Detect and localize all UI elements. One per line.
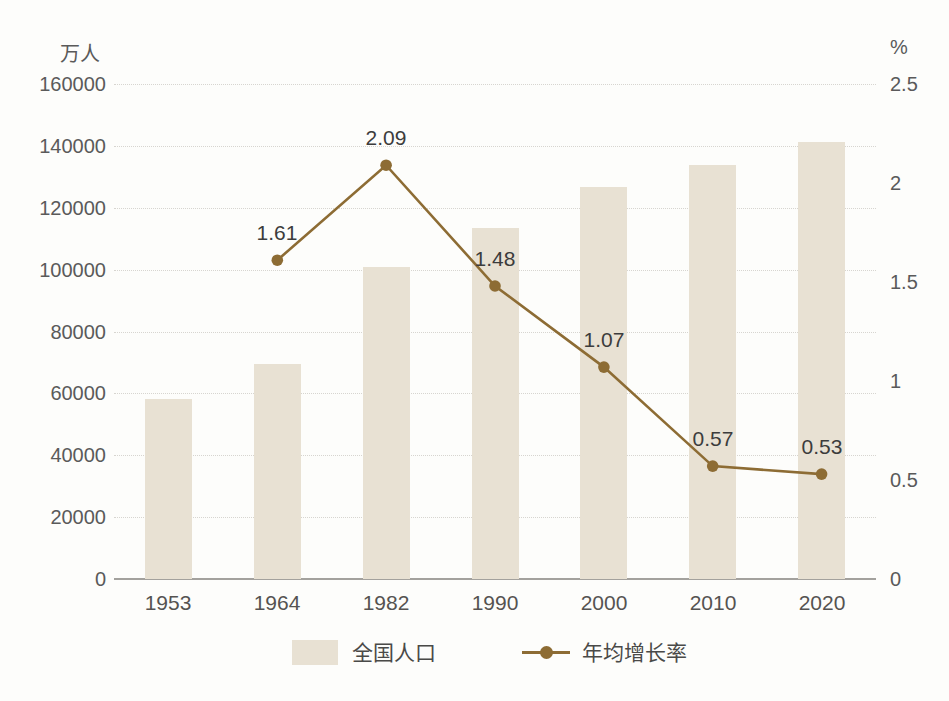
- growth-rate-point-dot: [380, 159, 392, 171]
- left-axis-title: 万人: [30, 43, 100, 65]
- x-axis-category-label: 2020: [777, 591, 867, 614]
- legend-bar-swatch: [292, 640, 338, 665]
- legend-bar-label: 全国人口: [352, 641, 436, 665]
- left-axis-tick-label: 40000: [30, 444, 106, 466]
- right-axis-tick-label: 2.5: [890, 73, 918, 95]
- growth-rate-point-label: 0.57: [671, 427, 755, 450]
- x-axis-category-label: 1990: [450, 591, 540, 614]
- left-axis-tick-label: 80000: [30, 321, 106, 343]
- growth-rate-point-label: 2.09: [344, 126, 428, 149]
- left-axis-tick-label: 60000: [30, 382, 106, 404]
- population-bar: [472, 228, 519, 579]
- x-axis-category-label: 2000: [559, 591, 649, 614]
- left-axis-tick-label: 120000: [30, 197, 106, 219]
- right-axis-tick-label: 1.5: [890, 271, 918, 293]
- population-bar: [254, 364, 301, 579]
- left-axis-tick-label: 0: [30, 568, 106, 590]
- x-axis-category-label: 1982: [341, 591, 431, 614]
- population-bar: [689, 165, 736, 579]
- right-axis-tick-label: 0: [890, 568, 901, 590]
- growth-rate-point-dot: [272, 254, 284, 266]
- gridline: [114, 208, 876, 209]
- population-bar: [798, 142, 845, 579]
- left-axis-tick-label: 140000: [30, 135, 106, 157]
- left-axis-tick-label: 160000: [30, 73, 106, 95]
- population-bar: [145, 399, 192, 579]
- growth-rate-point-label: 1.61: [235, 221, 319, 244]
- growth-rate-point-label: 1.48: [453, 247, 537, 270]
- gridline: [114, 84, 876, 85]
- population-bar: [363, 267, 410, 579]
- legend-line-label: 年均增长率: [582, 641, 687, 665]
- x-axis-category-label: 1964: [232, 591, 322, 614]
- x-axis-category-label: 2010: [668, 591, 758, 614]
- growth-rate-point-label: 0.53: [780, 435, 864, 458]
- x-axis-category-label: 1953: [123, 591, 213, 614]
- population-bar: [580, 187, 627, 579]
- gridline: [114, 146, 876, 147]
- right-axis-tick-label: 2: [890, 172, 901, 194]
- growth-rate-point-label: 1.07: [562, 328, 646, 351]
- left-axis-tick-label: 20000: [30, 506, 106, 528]
- right-axis-tick-label: 0.5: [890, 469, 918, 491]
- legend-line-swatch: [522, 645, 570, 659]
- right-axis-tick-label: 1: [890, 370, 901, 392]
- left-axis-tick-label: 100000: [30, 259, 106, 281]
- population-growth-chart: 万人 % 02000040000600008000010000012000014…: [0, 0, 949, 701]
- right-axis-title: %: [890, 36, 908, 58]
- legend-line-dot-icon: [540, 646, 553, 659]
